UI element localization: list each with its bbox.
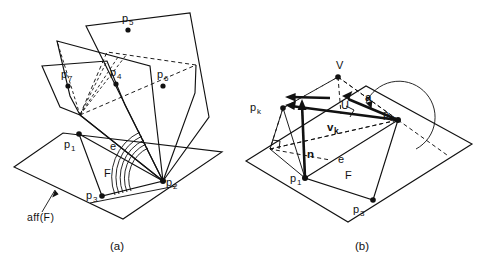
label-vk: v k — [327, 121, 339, 136]
label-F-a: F — [104, 167, 111, 179]
panel-a: p 5 p 7 p 4 p 6 p 1 p 2 p 3 e F aff(F) ( — [14, 12, 222, 252]
label-F-b: F — [345, 169, 352, 181]
label-p2-b: p 2 — [383, 108, 395, 123]
dot-p7 — [65, 83, 70, 88]
label-p1-a: p 1 — [64, 138, 76, 153]
rear-dashed-ridge — [80, 65, 196, 115]
angle-reference-ray — [398, 120, 447, 155]
label-p3-a-sub: 3 — [93, 195, 98, 204]
label-angle-a: a — [365, 91, 372, 103]
vector-pk-short-shaft — [291, 97, 330, 98]
halfplane-p5 — [86, 13, 209, 181]
label-p7: p 7 — [61, 68, 73, 83]
label-p7-sub: 7 — [68, 74, 73, 83]
dot-V — [335, 74, 341, 80]
figure-container: p 5 p 7 p 4 p 6 p 1 p 2 p 3 e F aff(F) ( — [0, 0, 482, 260]
label-aff-f: aff(F) — [27, 211, 54, 223]
label-p3-b-base: p — [353, 203, 359, 215]
label-p2-b-base: p — [383, 108, 389, 120]
label-p1-b-sub: 1 — [297, 178, 302, 187]
label-pk: p k — [250, 101, 262, 116]
label-p1-a-base: p — [64, 138, 70, 150]
label-p1-a-sub: 1 — [71, 144, 76, 153]
halfplane-p4 — [57, 41, 163, 181]
label-vk-sub: k — [334, 126, 339, 136]
dot-p1 — [76, 131, 82, 137]
angle-arc-1 — [129, 148, 148, 191]
vector-pk-short-arrowhead — [285, 93, 296, 101]
dot-pk — [280, 105, 286, 111]
label-p2-b-sub: 2 — [390, 114, 395, 123]
label-U: U — [341, 99, 349, 111]
label-p6-sub: 6 — [164, 74, 169, 83]
label-e-a: e — [110, 140, 116, 152]
label-pk-base: p — [250, 101, 256, 113]
label-p3-a-base: p — [86, 189, 92, 201]
label-p6-base: p — [157, 68, 163, 80]
label-p2-a-base: p — [166, 176, 172, 188]
label-p4-base: p — [110, 66, 116, 78]
label-n: n — [307, 148, 314, 160]
label-pk-sub: k — [257, 107, 262, 116]
label-p3-b-sub: 3 — [360, 209, 365, 218]
aff-f-leader-line — [42, 190, 55, 212]
caption-b: (b) — [355, 240, 369, 252]
edge-pk-down — [270, 108, 283, 149]
dot-p5 — [125, 27, 130, 32]
fan-line-1 — [80, 61, 107, 115]
caption-a: (a) — [110, 240, 124, 252]
edge-foot-to-p1 — [270, 149, 305, 178]
label-vk-base: v — [327, 121, 334, 133]
vector-n-shaft — [302, 104, 305, 178]
label-p5-base: p — [122, 12, 128, 24]
dot-p1-b — [302, 175, 308, 181]
figure-svg: p 5 p 7 p 4 p 6 p 1 p 2 p 3 e F aff(F) ( — [0, 0, 482, 260]
label-p7-base: p — [61, 68, 67, 80]
dot-p3-b — [370, 197, 376, 203]
angle-arc-3 — [120, 140, 144, 193]
dot-p4 — [113, 81, 118, 86]
label-p2-a-sub: 2 — [173, 182, 178, 191]
label-V: V — [336, 59, 344, 71]
label-p5: p 5 — [122, 12, 134, 27]
dot-p3 — [99, 193, 105, 199]
label-e-b: e — [338, 153, 344, 165]
facet-triangle-b — [305, 120, 398, 200]
vector-p2-to-pk-arrowhead — [285, 101, 296, 110]
label-p4-sub: 4 — [117, 72, 122, 81]
label-p1-b-base: p — [290, 172, 296, 184]
dot-p2-b — [395, 117, 401, 123]
dot-p6 — [160, 83, 165, 88]
aux-parallelogram-left — [270, 108, 330, 160]
panel-b: p k V U a v k p 2 n e F p 1 p 3 (b) — [246, 59, 472, 252]
plane-b-outline — [246, 86, 472, 222]
label-p5-sub: 5 — [129, 18, 134, 27]
fan-line-3 — [80, 54, 127, 115]
